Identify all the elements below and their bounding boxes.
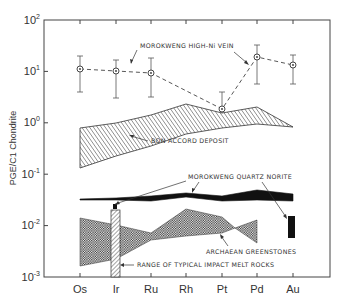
bon-accord-band xyxy=(80,104,293,168)
high-ni-vein-series xyxy=(77,45,296,113)
anno-quartz-norite: MOROKWENG QUARTZ NORITE xyxy=(188,173,292,180)
anno-impact-melt: RANGE OF TYPICAL IMPACT MELT ROCKS xyxy=(137,261,274,268)
y-axis xyxy=(44,71,48,225)
svg-text:10-3: 10-3 xyxy=(22,270,41,283)
y-tick-labels: 102 101 100 10-1 10-2 10-3 xyxy=(22,13,41,283)
svg-text:102: 102 xyxy=(24,13,40,26)
svg-text:10-1: 10-1 xyxy=(22,167,41,180)
quartz-norite-band xyxy=(80,190,293,201)
svg-text:Ir: Ir xyxy=(113,283,120,295)
svg-text:Pt: Pt xyxy=(217,283,227,295)
svg-text:Pd: Pd xyxy=(250,283,263,295)
pge-chondrite-chart: 102 101 100 10-1 10-2 10-3 PGE/C1 Chondr… xyxy=(0,0,339,301)
svg-text:101: 101 xyxy=(24,64,40,77)
anno-high-ni-vein: MOROKWENG HIGH-Ni VEIN xyxy=(140,42,234,49)
x-tick-labels: Os Ir Ru Rh Pt Pd Au xyxy=(73,283,300,295)
anno-bon-accord: BON ACCORD DEPOSIT xyxy=(151,137,229,144)
svg-text:10-2: 10-2 xyxy=(22,218,41,231)
svg-text:Os: Os xyxy=(73,283,88,295)
norite-ir-bar xyxy=(113,204,117,209)
svg-text:Ru: Ru xyxy=(144,283,158,295)
svg-text:Rh: Rh xyxy=(179,283,193,295)
anno-archaean-greenstones: ARCHAEAN GREENSTONES xyxy=(206,248,296,255)
impact-melt-hatch xyxy=(111,210,120,277)
svg-text:100: 100 xyxy=(24,115,40,128)
archaean-greenstones-band xyxy=(80,209,257,266)
svg-text:Au: Au xyxy=(286,283,299,295)
y-axis-label: PGE/C1 Chondrite xyxy=(8,111,18,186)
norite-au-bar xyxy=(288,216,295,238)
